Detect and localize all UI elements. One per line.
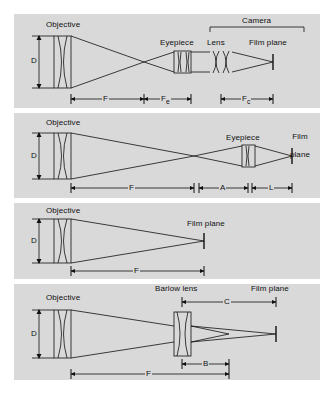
panel-4-film-plane-label: Film plane xyxy=(251,284,289,293)
panel-3-aperture-label: D xyxy=(31,236,37,245)
panel-1-eyepiece-label: Eyepiece xyxy=(160,38,194,47)
objective-cell xyxy=(54,133,71,179)
panel-2-eyepiece-label: Eyepiece xyxy=(226,133,260,142)
panel-3-dimension-F: F xyxy=(133,266,140,275)
panel-1-camera-label: Camera xyxy=(242,16,271,25)
panel-2-aperture-label: D xyxy=(31,151,37,160)
objective-cell xyxy=(54,310,71,358)
dimension-row xyxy=(71,183,293,193)
panel-1-dimension-Fe: Fe xyxy=(160,94,171,106)
optical-diagram-figure: Objective D Eyepiece Lens Film plane Cam… xyxy=(0,0,334,394)
panel-4-dimension-C: C xyxy=(223,297,231,306)
panel-4-dimension-B: B xyxy=(202,359,209,368)
panel-2-objective-label: Objective xyxy=(46,118,80,127)
panel-1-dimension-Fc: Fc xyxy=(241,94,251,106)
panel-1-objective-label: Objective xyxy=(46,20,80,29)
panel-4-objective-label: Objective xyxy=(46,293,80,302)
panel-4-dimension-F: F xyxy=(145,369,152,378)
panel-barlow-lens: Objective D Barlow lens Film plane C B F xyxy=(14,284,320,380)
objective-cell xyxy=(54,36,71,88)
panel-1-dimension-F: F xyxy=(102,94,109,103)
barlow-cell xyxy=(174,312,191,356)
panel-afocal-eyepiece-projection: Objective D Eyepiece Lens Film plane Cam… xyxy=(14,14,320,108)
panel-4-barlow-label: Barlow lens xyxy=(155,284,197,293)
panel-1-camera-lens-label: Lens xyxy=(207,38,225,47)
panel-4-aperture-label: D xyxy=(31,329,37,338)
panel-2-dimension-F: F xyxy=(128,183,135,192)
panel-3-objective-label: Objective xyxy=(46,206,80,215)
panel-1-film-plane-label: Film plane xyxy=(249,38,287,47)
panel-2-film-plane-label: Film plane xyxy=(276,123,310,168)
panel-2-dimension-L: L xyxy=(268,183,274,192)
panel-3-film-plane-label: Film plane xyxy=(187,219,225,228)
panel-eyepiece-projection: Objective D Eyepiece Film plane F A L xyxy=(14,113,320,198)
panel-prime-focus: Objective D Film plane F xyxy=(14,203,320,279)
panel-2-dimension-A: A xyxy=(219,183,226,192)
panel-1-aperture-label: D xyxy=(31,56,37,65)
objective-cell xyxy=(54,219,71,263)
camera-bracket xyxy=(210,27,304,32)
